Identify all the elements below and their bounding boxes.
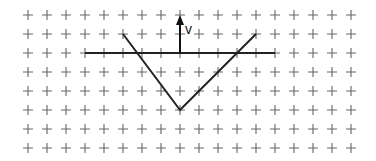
grid-plus-marker bbox=[327, 105, 337, 115]
grid-plus-marker bbox=[61, 29, 71, 39]
grid-plus-marker bbox=[80, 124, 90, 134]
grid-plus-marker bbox=[346, 48, 356, 58]
grid-plus-marker bbox=[99, 143, 109, 153]
grid-plus-marker bbox=[194, 10, 204, 20]
grid-plus-marker bbox=[42, 86, 52, 96]
grid-plus-marker bbox=[270, 67, 280, 77]
grid-plus-marker bbox=[80, 10, 90, 20]
arrow-head-icon bbox=[176, 15, 184, 25]
grid-plus-marker bbox=[308, 10, 318, 20]
grid-plus-marker bbox=[270, 10, 280, 20]
grid-plus-marker bbox=[23, 105, 33, 115]
grid-plus-marker bbox=[346, 105, 356, 115]
grid-plus-marker bbox=[232, 10, 242, 20]
grid-plus-marker bbox=[308, 29, 318, 39]
grid-plus-marker bbox=[175, 124, 185, 134]
grid-plus-marker bbox=[213, 105, 223, 115]
grid-plus-marker bbox=[23, 67, 33, 77]
grid-plus-marker bbox=[289, 48, 299, 58]
grid-plus-marker bbox=[156, 105, 166, 115]
grid-plus-marker bbox=[42, 124, 52, 134]
grid-plus-marker bbox=[156, 67, 166, 77]
grid-plus-marker bbox=[80, 143, 90, 153]
grid-plus-marker bbox=[137, 105, 147, 115]
grid-plus-marker bbox=[137, 124, 147, 134]
grid-plus-marker bbox=[232, 29, 242, 39]
grid-plus-marker bbox=[270, 86, 280, 96]
grid-plus-marker bbox=[194, 105, 204, 115]
grid-plus-marker bbox=[80, 67, 90, 77]
grid-plus-marker bbox=[156, 10, 166, 20]
grid-plus-marker bbox=[118, 124, 128, 134]
grid-plus-marker bbox=[175, 86, 185, 96]
grid-plus-marker bbox=[137, 10, 147, 20]
grid-plus-marker bbox=[118, 86, 128, 96]
grid-plus-marker bbox=[80, 86, 90, 96]
grid-plus-marker bbox=[289, 105, 299, 115]
grid-plus-marker bbox=[156, 143, 166, 153]
grid-plus-marker bbox=[251, 67, 261, 77]
grid-plus-marker bbox=[99, 10, 109, 20]
grid-plus-marker bbox=[61, 48, 71, 58]
grid-plus-marker bbox=[213, 86, 223, 96]
grid-plus-marker bbox=[42, 48, 52, 58]
grid-plus-marker bbox=[61, 105, 71, 115]
grid-plus-marker bbox=[61, 124, 71, 134]
grid-plus-marker bbox=[175, 143, 185, 153]
grid-plus-marker bbox=[137, 29, 147, 39]
grid-plus-marker bbox=[327, 124, 337, 134]
grid-plus-marker bbox=[327, 143, 337, 153]
grid-plus-marker bbox=[289, 86, 299, 96]
grid-plus-marker bbox=[308, 86, 318, 96]
grid-plus-marker bbox=[99, 86, 109, 96]
grid-plus-marker bbox=[137, 67, 147, 77]
grid-plus-marker bbox=[232, 86, 242, 96]
grid-plus-marker bbox=[346, 10, 356, 20]
grid-plus-marker bbox=[23, 29, 33, 39]
grid-plus-marker bbox=[327, 86, 337, 96]
grid-plus-marker bbox=[137, 86, 147, 96]
grid-plus-marker bbox=[213, 124, 223, 134]
grid-plus-marker bbox=[270, 143, 280, 153]
grid-plus-marker bbox=[156, 29, 166, 39]
grid-plus-marker bbox=[194, 67, 204, 77]
grid-plus-marker bbox=[194, 143, 204, 153]
grid-plus-marker bbox=[23, 10, 33, 20]
grid-plus-marker bbox=[118, 10, 128, 20]
grid-plus-marker bbox=[61, 86, 71, 96]
grid-plus-marker bbox=[327, 48, 337, 58]
grid-plus-marker bbox=[308, 143, 318, 153]
grid-plus-marker bbox=[194, 124, 204, 134]
grid-plus-marker bbox=[80, 105, 90, 115]
grid-plus-marker bbox=[289, 10, 299, 20]
grid-plus-marker bbox=[99, 67, 109, 77]
grid-plus-marker bbox=[213, 29, 223, 39]
grid-plus-marker bbox=[327, 67, 337, 77]
grid-plus-marker bbox=[61, 143, 71, 153]
grid-plus-marker bbox=[346, 124, 356, 134]
grid-plus-marker bbox=[23, 143, 33, 153]
grid-plus-marker bbox=[289, 143, 299, 153]
grid-plus-marker bbox=[23, 124, 33, 134]
grid-plus-marker bbox=[118, 143, 128, 153]
grid-plus-marker bbox=[251, 143, 261, 153]
grid-plus-marker bbox=[80, 29, 90, 39]
grid-plus-marker bbox=[61, 10, 71, 20]
grid-plus-marker bbox=[175, 67, 185, 77]
grid-plus-marker bbox=[308, 48, 318, 58]
grid-plus-marker bbox=[308, 124, 318, 134]
grid-plus-marker bbox=[137, 143, 147, 153]
grid-plus-marker bbox=[42, 143, 52, 153]
grid-plus-marker bbox=[23, 86, 33, 96]
grid-plus-marker bbox=[289, 29, 299, 39]
grid-plus-marker bbox=[194, 29, 204, 39]
grid-plus-marker bbox=[270, 105, 280, 115]
grid-plus-marker bbox=[270, 29, 280, 39]
grid-plus-marker bbox=[289, 124, 299, 134]
grid-plus-marker bbox=[251, 124, 261, 134]
grid-plus-marker bbox=[346, 143, 356, 153]
grid-plus-marker bbox=[99, 124, 109, 134]
grid-plus-marker bbox=[156, 124, 166, 134]
grid-plus-marker bbox=[118, 105, 128, 115]
grid-plus-marker bbox=[213, 143, 223, 153]
